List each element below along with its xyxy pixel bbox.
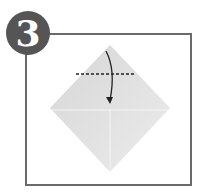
step-number: 3 xyxy=(15,15,40,51)
step-number-badge: 3 xyxy=(6,11,50,55)
